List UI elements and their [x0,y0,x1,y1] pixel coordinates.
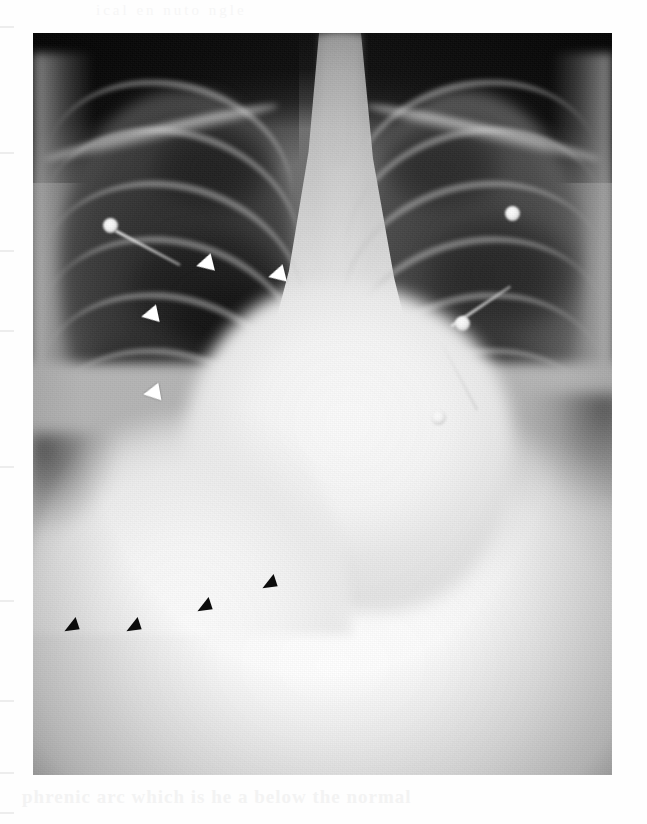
margin-tick [0,466,14,468]
ecg-electrode-left-upper [505,206,520,221]
chest-radiograph [33,33,612,775]
margin-tick [0,700,14,702]
white-arrowhead [142,383,162,404]
figure-caption-ghost: phrenic arc which is he a below the norm… [22,786,412,808]
margin-tick [0,26,14,28]
radiograph-film [33,33,612,775]
ecg-electrode-left-lower [431,410,446,425]
margin-tick [0,152,14,154]
margin-tick [0,600,14,602]
ecg-electrode-left-mid [455,316,470,331]
margin-tick [0,250,14,252]
left-costophrenic-angle [484,393,612,573]
margin-tick [0,812,14,814]
ghost-text-top: ical en nuto ngle [96,2,247,19]
right-costophrenic-angle [33,433,149,593]
white-arrowhead [139,304,159,325]
margin-tick [0,772,14,774]
ecg-electrode-right-upper [103,218,118,233]
margin-tick [0,330,14,332]
figure-page: ical en nuto ngle phrenic arc which is h… [0,0,647,824]
